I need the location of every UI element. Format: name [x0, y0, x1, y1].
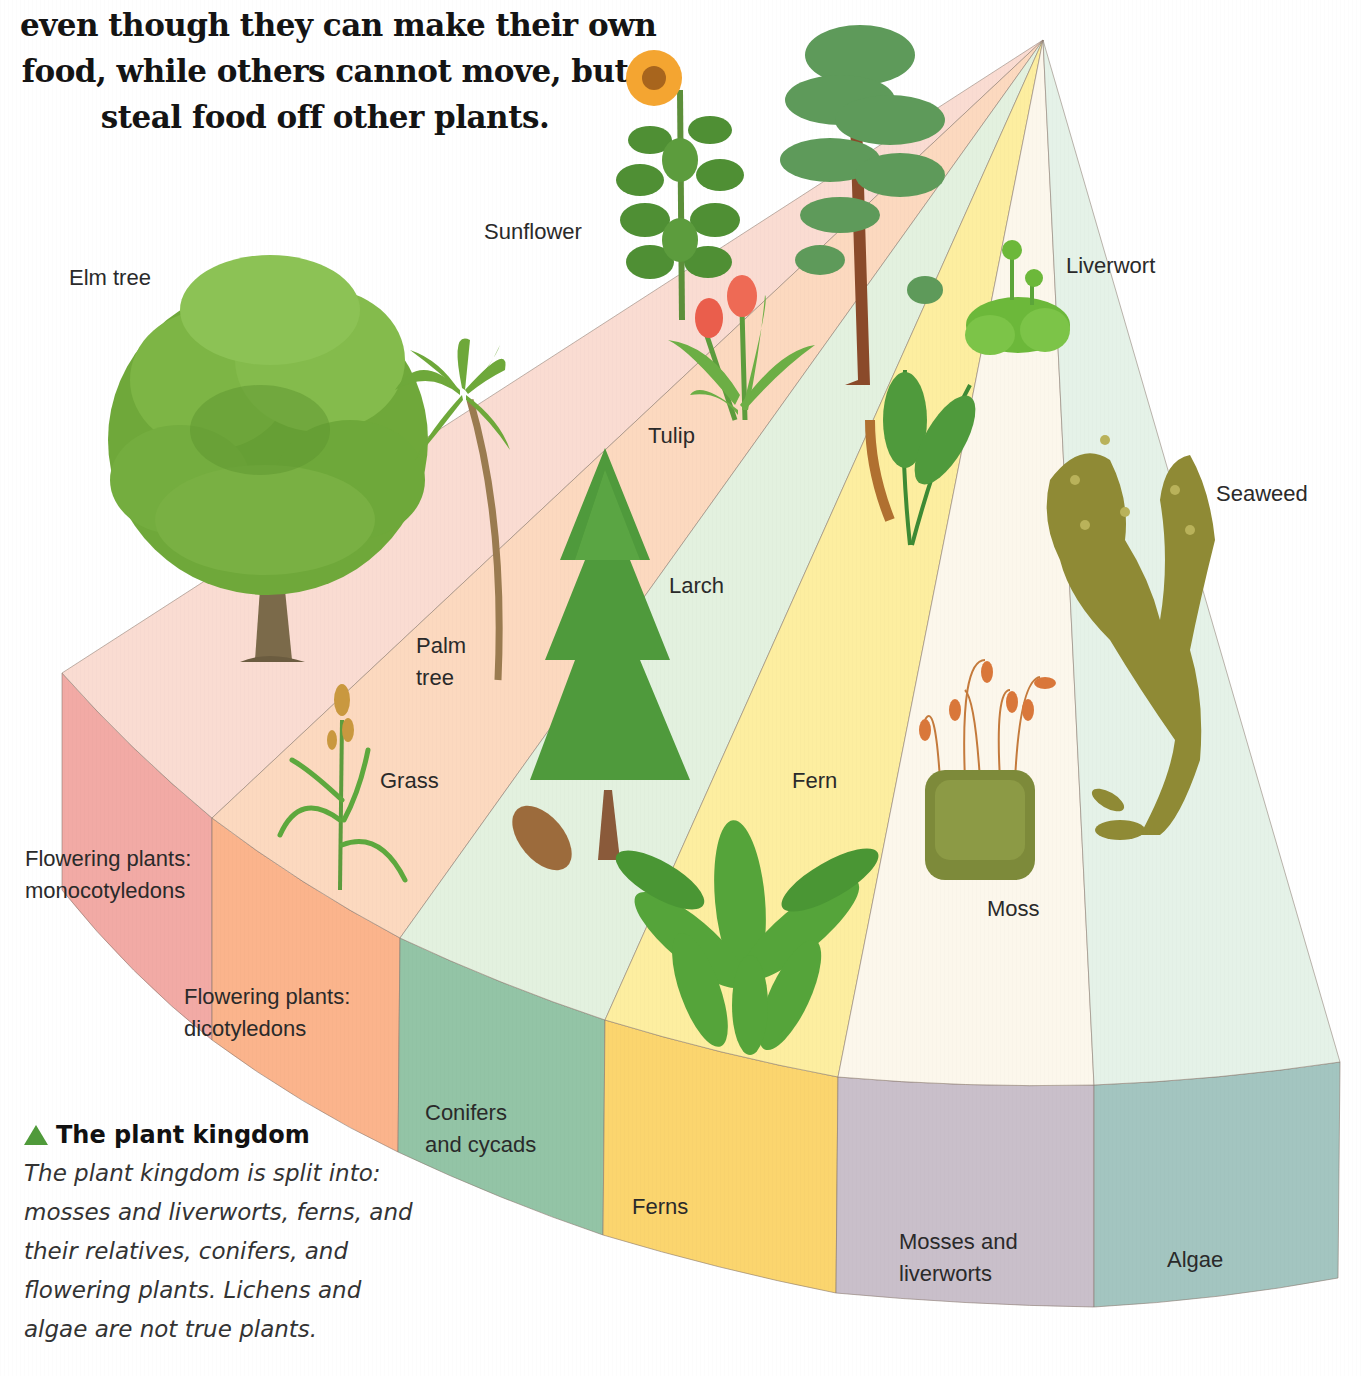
- plant-kingdom-page: even though they can make their own food…: [0, 0, 1362, 1376]
- group-label-mosses-line1: Mosses and: [899, 1226, 1018, 1258]
- caption-line-1: The plant kingdom is split into:: [24, 1154, 424, 1193]
- green-triangle-icon: [24, 1125, 48, 1145]
- group-label-dicots-line2: dicotyledons: [184, 1013, 306, 1045]
- caption-block: The plant kingdom The plant kingdom is s…: [24, 1116, 424, 1349]
- group-label-conifers-line1: Conifers: [425, 1097, 507, 1129]
- caption-body: The plant kingdom is split into: mosses …: [24, 1154, 424, 1349]
- label-tulip: Tulip: [648, 420, 695, 452]
- label-sunflower: Sunflower: [484, 216, 582, 248]
- caption-line-2: mosses and liverworts, ferns, and: [24, 1193, 424, 1232]
- label-fern: Fern: [792, 765, 837, 797]
- label-larch: Larch: [669, 570, 724, 602]
- label-moss: Moss: [987, 893, 1040, 925]
- caption-heading: The plant kingdom: [24, 1116, 424, 1154]
- caption-line-3: their relatives, conifers, and: [24, 1232, 424, 1271]
- group-label-ferns: Ferns: [632, 1191, 688, 1223]
- label-palm-tree-line2: tree: [416, 662, 454, 694]
- label-palm-tree-line1: Palm: [416, 630, 466, 662]
- label-seaweed: Seaweed: [1216, 478, 1308, 510]
- group-label-monocots-line2: monocotyledons: [25, 875, 185, 907]
- group-label-dicots-line1: Flowering plants:: [184, 981, 350, 1013]
- group-label-algae: Algae: [1167, 1244, 1223, 1276]
- group-label-monocots-line1: Flowering plants:: [25, 843, 191, 875]
- caption-line-4: flowering plants. Lichens and: [24, 1271, 424, 1310]
- caption-line-5: algae are not true plants.: [24, 1310, 424, 1349]
- label-liverwort: Liverwort: [1066, 250, 1155, 282]
- caption-title: The plant kingdom: [56, 1116, 310, 1154]
- label-grass: Grass: [380, 765, 439, 797]
- group-label-conifers-line2: and cycads: [425, 1129, 536, 1161]
- label-elm-tree: Elm tree: [69, 262, 151, 294]
- group-label-mosses-line2: liverworts: [899, 1258, 992, 1290]
